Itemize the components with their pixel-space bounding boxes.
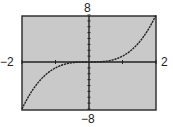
- graph-screen: [0, 0, 173, 127]
- xmax-label: 2: [161, 56, 168, 68]
- ymax-label: 8: [84, 2, 91, 14]
- ymin-label: −8: [81, 113, 95, 125]
- xmin-label: −2: [0, 56, 14, 68]
